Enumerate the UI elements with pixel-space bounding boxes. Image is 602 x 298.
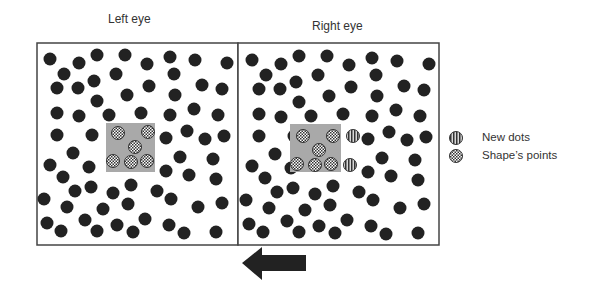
random-dot xyxy=(188,103,201,116)
random-dot xyxy=(313,220,326,233)
random-dot xyxy=(343,59,356,72)
shape-point xyxy=(112,127,125,140)
random-dot xyxy=(253,83,266,96)
random-dot xyxy=(367,194,380,207)
random-dot xyxy=(309,188,322,201)
random-dot xyxy=(44,159,57,172)
random-dot xyxy=(409,154,422,167)
random-dot xyxy=(189,54,202,67)
shape-point xyxy=(327,130,340,143)
right-eye-panel xyxy=(238,43,439,245)
random-dot xyxy=(362,166,375,179)
shape-points-legend-icon xyxy=(450,150,463,163)
shape-point xyxy=(313,144,326,157)
random-dot xyxy=(321,50,334,63)
random-dot xyxy=(362,133,375,146)
stereogram-diagram: Left eye Right eye New dots Shape’s poin… xyxy=(0,0,602,298)
random-dot xyxy=(337,108,350,121)
random-dot xyxy=(380,228,393,241)
new-dot xyxy=(347,130,360,143)
shape-point xyxy=(297,130,310,143)
random-dot xyxy=(141,58,154,71)
random-dot xyxy=(85,181,98,194)
random-dot xyxy=(165,193,178,206)
random-dot xyxy=(163,219,176,232)
random-dot xyxy=(61,201,74,214)
random-dot xyxy=(103,109,116,122)
random-dot xyxy=(366,110,379,123)
random-dot xyxy=(210,173,223,186)
random-dot xyxy=(423,58,436,71)
left-eye-panel xyxy=(37,43,238,245)
shape-point xyxy=(141,155,154,168)
random-dot xyxy=(51,82,64,95)
random-dot xyxy=(125,179,138,192)
random-dot xyxy=(412,227,425,240)
random-dot xyxy=(281,215,294,228)
shape-point xyxy=(129,141,142,154)
random-dot xyxy=(122,198,135,211)
random-dot xyxy=(55,225,68,238)
random-dot xyxy=(376,152,389,165)
random-dot xyxy=(38,193,51,206)
random-dot xyxy=(67,147,80,160)
random-dot xyxy=(192,201,205,214)
random-dot xyxy=(327,180,340,193)
random-dot xyxy=(151,185,164,198)
random-dot xyxy=(97,203,110,216)
shape-point xyxy=(291,158,304,171)
random-dot xyxy=(51,129,64,142)
random-dot xyxy=(73,57,86,70)
random-dot xyxy=(164,109,177,122)
random-dot xyxy=(263,202,276,215)
random-dot xyxy=(366,52,379,65)
random-dot xyxy=(72,82,85,95)
random-dot xyxy=(51,107,64,120)
random-dot xyxy=(91,95,104,108)
new-dots-legend-icon xyxy=(450,132,463,145)
random-dot xyxy=(216,197,229,210)
random-dot xyxy=(174,151,187,164)
random-dot xyxy=(79,214,92,227)
random-dot xyxy=(260,69,273,82)
random-dot xyxy=(164,51,177,64)
random-dot xyxy=(196,79,209,92)
random-dot xyxy=(210,226,223,239)
random-dot xyxy=(69,185,82,198)
random-dot xyxy=(383,126,396,139)
random-dot xyxy=(91,49,104,62)
random-dot xyxy=(169,89,182,102)
random-dot xyxy=(385,170,398,183)
random-dot xyxy=(212,109,225,122)
random-dot xyxy=(341,214,354,227)
random-dot xyxy=(418,198,431,211)
random-dot xyxy=(290,76,303,89)
random-dot xyxy=(216,83,229,96)
random-dot xyxy=(414,110,427,123)
random-dot xyxy=(269,148,282,161)
random-dot xyxy=(183,169,196,182)
random-dot xyxy=(275,111,288,124)
random-dot xyxy=(257,226,270,239)
random-dot xyxy=(221,57,234,70)
random-dot xyxy=(121,89,134,102)
random-dot xyxy=(365,220,378,233)
random-dot xyxy=(420,131,433,144)
random-dot xyxy=(199,133,212,146)
left-arrow-icon xyxy=(242,247,306,280)
random-dot xyxy=(371,90,384,103)
random-dot xyxy=(86,129,99,142)
random-dot xyxy=(83,161,96,174)
new-dot xyxy=(344,159,357,172)
random-dot xyxy=(329,227,342,240)
random-dot xyxy=(401,134,414,147)
legend-shape-points-label: Shape’s points xyxy=(482,149,557,161)
random-dot xyxy=(299,204,312,217)
random-dot xyxy=(143,80,156,93)
random-dot xyxy=(353,186,366,199)
random-dot xyxy=(259,172,272,185)
random-dot xyxy=(246,54,259,67)
random-dot xyxy=(139,213,152,226)
random-dot xyxy=(57,171,70,184)
random-dot xyxy=(293,50,306,63)
